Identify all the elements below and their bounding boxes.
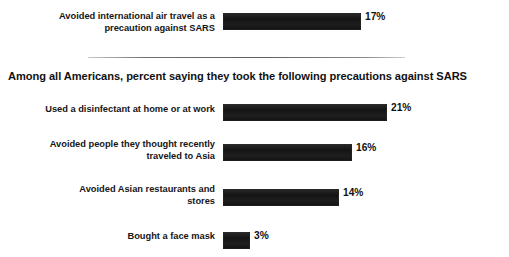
bar-fill-avoid-people xyxy=(223,144,352,161)
bar-label-disinfectant: Used a disinfectant at home or at work xyxy=(8,104,215,116)
section-divider xyxy=(88,57,405,58)
bar-track-restaurants xyxy=(223,189,339,206)
bar-chart: Avoided international air travel as a pr… xyxy=(0,0,509,257)
bar-fill-restaurants xyxy=(223,189,339,206)
bar-value-air-travel: 17% xyxy=(365,11,385,22)
bar-label-line1: Avoided people they thought recently xyxy=(50,139,215,149)
bar-track-disinfectant xyxy=(223,104,387,121)
bar-value-face-mask: 3% xyxy=(254,230,269,241)
bar-value-avoid-people: 16% xyxy=(356,142,376,153)
bar-track-avoid-people xyxy=(223,144,352,161)
bar-track-face-mask xyxy=(223,232,250,249)
bar-label-avoid-people: Avoided people they thought recently tra… xyxy=(8,139,215,162)
bar-row-avoid-people: Avoided people they thought recently tra… xyxy=(0,139,509,173)
section-heading: Among all Americans, percent saying they… xyxy=(8,70,506,82)
bar-value-disinfectant: 21% xyxy=(391,102,411,113)
bar-label-air-travel: Avoided international air travel as a pr… xyxy=(8,11,215,34)
bar-fill-disinfectant xyxy=(223,104,387,121)
bar-fill-air-travel xyxy=(223,13,361,30)
bar-label-line1: Avoided Asian restaurants and xyxy=(79,184,215,194)
bar-label-line2: precaution against SARS xyxy=(104,23,215,33)
bar-track-air-travel xyxy=(223,13,361,30)
bar-label-line2: stores xyxy=(187,196,215,206)
bar-label-line2: traveled to Asia xyxy=(146,151,215,161)
bar-label-restaurants: Avoided Asian restaurants and stores xyxy=(8,184,215,207)
bar-value-restaurants: 14% xyxy=(343,187,363,198)
bar-row-air-travel: Avoided international air travel as a pr… xyxy=(0,6,509,40)
bar-label-line1: Avoided international air travel as a xyxy=(59,11,215,21)
bar-row-restaurants: Avoided Asian restaurants and stores 14% xyxy=(0,184,509,218)
bar-row-face-mask: Bought a face mask 3% xyxy=(0,227,509,257)
bar-row-disinfectant: Used a disinfectant at home or at work 2… xyxy=(0,99,509,133)
bar-label-face-mask: Bought a face mask xyxy=(8,231,215,243)
bar-fill-face-mask xyxy=(223,232,250,249)
